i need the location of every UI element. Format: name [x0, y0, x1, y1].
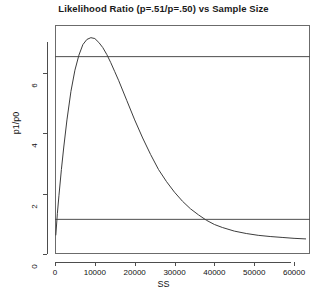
- plot-area: [55, 25, 310, 254]
- chart-title: Likelihood Ratio (p=.51/p=.50) vs Sample…: [0, 3, 327, 14]
- plot-svg: [55, 25, 310, 254]
- y-tick-label: 4: [30, 133, 39, 159]
- x-tick: [175, 262, 176, 266]
- x-tick-label: 60000: [268, 268, 320, 277]
- y-axis-label: p1/p0: [11, 93, 21, 153]
- likelihood-ratio-curve: [56, 38, 306, 239]
- x-tick: [294, 262, 295, 266]
- y-tick: [43, 133, 47, 134]
- y-tick-label: 6: [30, 73, 39, 99]
- y-tick-label: 0: [30, 254, 39, 280]
- x-tick: [95, 262, 96, 266]
- y-tick-label: 2: [30, 193, 39, 219]
- x-axis-label: SS: [0, 279, 327, 289]
- x-tick: [214, 262, 215, 266]
- y-axis-line: [47, 42, 48, 254]
- x-tick: [254, 262, 255, 266]
- x-tick: [135, 262, 136, 266]
- y-tick: [43, 73, 47, 74]
- reference-lines-group: [55, 57, 310, 220]
- y-tick: [43, 254, 47, 255]
- y-tick: [43, 194, 47, 195]
- chart-figure: Likelihood Ratio (p=.51/p=.50) vs Sample…: [0, 0, 327, 294]
- x-axis-line: [55, 262, 291, 263]
- series-group: [56, 38, 306, 239]
- x-tick: [55, 262, 56, 266]
